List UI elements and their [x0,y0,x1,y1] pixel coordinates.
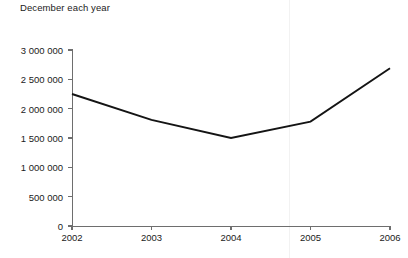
y-tick-mark [68,108,72,109]
x-tick-mark [151,226,152,230]
y-tick-label: 2 500 000 [21,74,63,85]
x-tick-mark [310,226,311,230]
x-tick-mark [230,226,231,230]
y-tick-label: 500 000 [29,191,63,202]
x-tick-label: 2003 [141,232,162,243]
x-tick-mark [71,226,72,230]
x-tick-label: 2004 [220,232,241,243]
y-tick-mark [68,196,72,197]
x-tick-mark [389,226,390,230]
y-tick-label: 2 000 000 [21,103,63,114]
y-axis-labels: 0500 0001 000 0001 500 0002 000 0002 500… [0,0,63,258]
y-tick-mark [68,49,72,50]
y-tick-mark [68,79,72,80]
y-tick-label: 0 [58,221,63,232]
y-axis-line [72,49,73,227]
y-tick-mark [68,137,72,138]
scan-artifact-line [289,0,291,258]
y-tick-label: 1 500 000 [21,133,63,144]
line-chart: December each year 0500 0001 000 0001 50… [0,0,408,258]
x-tick-label: 2005 [300,232,321,243]
y-tick-label: 1 000 000 [21,162,63,173]
y-tick-mark [68,167,72,168]
y-tick-label: 3 000 000 [21,45,63,56]
clipped-footer-text [0,252,408,258]
x-tick-label: 2002 [61,232,82,243]
x-tick-label: 2006 [379,232,400,243]
